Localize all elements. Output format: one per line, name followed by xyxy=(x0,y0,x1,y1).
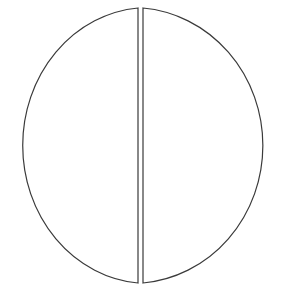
left-half-shape xyxy=(23,8,138,283)
diagram-canvas xyxy=(0,0,285,296)
right-half-shape xyxy=(143,8,263,283)
